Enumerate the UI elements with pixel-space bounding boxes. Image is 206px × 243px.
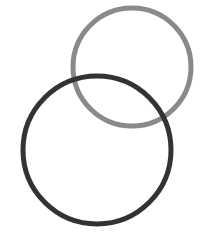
lower-left-circle — [23, 76, 171, 224]
venn-diagram — [0, 0, 206, 243]
upper-right-circle — [73, 8, 191, 126]
